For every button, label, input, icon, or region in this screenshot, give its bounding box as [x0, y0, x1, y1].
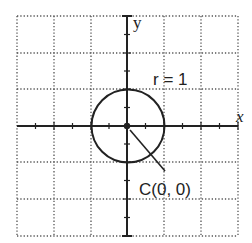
x-axis-label: x	[235, 107, 244, 126]
center-leader-line	[130, 130, 165, 171]
center-label: C(0, 0)	[139, 180, 191, 199]
y-axis-label: y	[133, 13, 142, 32]
coordinate-diagram: y x r = 1 C(0, 0)	[0, 0, 252, 243]
center-point	[124, 123, 130, 129]
radius-label: r = 1	[153, 70, 188, 89]
